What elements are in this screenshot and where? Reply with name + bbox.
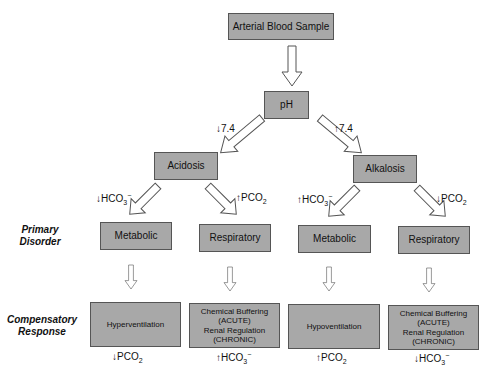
arrow-down-icon — [125, 265, 137, 289]
result-label-col2: ↑HCO3− — [216, 351, 251, 365]
ph-text: pH — [280, 99, 293, 111]
acidosis-edge-label: ↓7.4 — [216, 123, 235, 134]
primary-disorder-label: PrimaryDisorder — [10, 224, 70, 248]
arterial-blood-sample-box: Arterial Blood Sample — [228, 13, 334, 40]
result-label-col1: ↓PCO2 — [112, 351, 143, 364]
metabolic-acidosis-box: Metabolic — [100, 222, 172, 250]
metabolic-alkalosis-box: Metabolic — [298, 225, 371, 253]
response-box-col3: Hypoventilation — [288, 304, 380, 349]
arrow-down-icon — [323, 267, 335, 291]
edge-label-col3: ↑HCO3− — [297, 193, 332, 207]
respiratory-alkalosis-box: Respiratory — [398, 226, 470, 254]
edge-label-col4: ↓PCO2 — [436, 193, 467, 206]
edge-label-col2: ↑PCO2 — [236, 192, 267, 205]
alkalosis-edge-label: ↑7.4 — [334, 123, 353, 134]
ph-box: pH — [264, 91, 309, 119]
arrow-down-icon — [224, 267, 236, 291]
result-label-col3: ↑PCO2 — [316, 352, 347, 365]
arrow-diag-left-icon — [214, 110, 268, 160]
edge-label-col1: ↓HCO3− — [96, 192, 131, 206]
acidosis-text: Acidosis — [167, 160, 204, 172]
arrow-diag-right-icon — [314, 110, 368, 160]
alkalosis-box: Alkalosis — [353, 155, 417, 183]
response-box-col1: Hyperventilation — [90, 302, 181, 347]
compensatory-response-label: CompensatoryResponse — [2, 314, 82, 338]
acidosis-box: Acidosis — [154, 152, 218, 180]
response-box-col2: Chemical Buffering(ACUTE)Renal Regulatio… — [189, 303, 280, 348]
response-box-col4: Chemical Buffering(ACUTE)Renal Regulatio… — [388, 305, 479, 350]
arrow-down-icon — [282, 46, 302, 86]
alkalosis-text: Alkalosis — [365, 163, 404, 175]
result-label-col4: ↓HCO3− — [414, 352, 449, 366]
respiratory-acidosis-box: Respiratory — [199, 224, 271, 252]
arrow-down-icon — [423, 268, 435, 292]
title-text: Arterial Blood Sample — [233, 21, 330, 33]
